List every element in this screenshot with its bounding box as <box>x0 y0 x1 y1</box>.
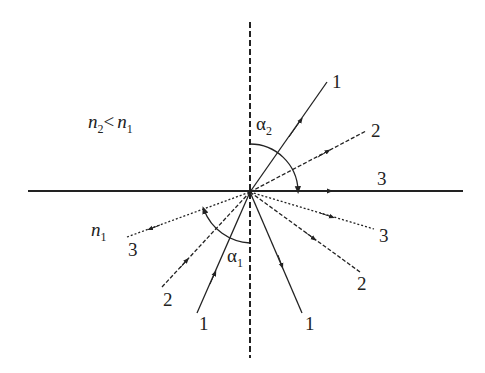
refracted-ray-2 <box>250 131 366 192</box>
ray-label-incident-2: 2 <box>163 289 173 310</box>
incident-ray-1 <box>197 192 250 313</box>
angle-label-alpha1: α1 <box>227 245 243 270</box>
incident-ray-3 <box>127 192 250 237</box>
refracted-ray-1 <box>250 82 327 192</box>
ray-label-surface-3: 3 <box>377 168 387 189</box>
ray-label-incident-3: 3 <box>128 239 138 260</box>
angle-arc-alpha2 <box>250 144 298 190</box>
incident-ray-2 <box>162 192 250 287</box>
ray-label-reflected-3: 3 <box>379 225 389 246</box>
angle-label-alpha2: α2 <box>256 113 272 138</box>
ray-label-incident-1: 1 <box>199 313 209 334</box>
lower-medium-label: n1 <box>91 219 107 244</box>
angle-arc-alpha1 <box>204 210 250 243</box>
reflected-ray-3 <box>250 192 374 229</box>
ray-label-upper-2: 2 <box>371 120 381 141</box>
ray-label-upper-1: 1 <box>332 71 342 92</box>
optics-diagram: n2<n1 n1 α2 α1 1 2 3 3 2 1 1 2 3 <box>0 0 485 373</box>
medium-condition-label: n2<n1 <box>88 111 133 136</box>
ray-label-reflected-2: 2 <box>357 273 367 294</box>
ray-label-reflected-1: 1 <box>305 313 315 334</box>
